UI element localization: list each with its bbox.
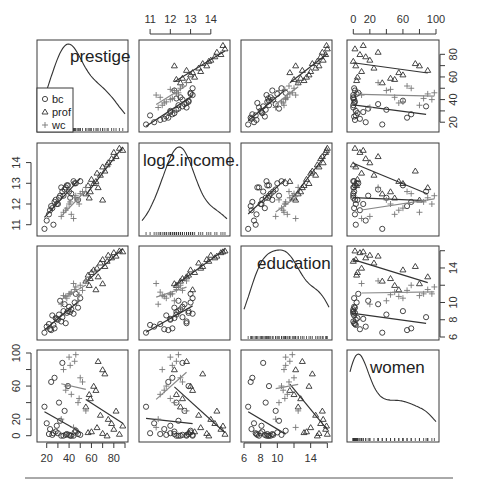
tick-label: 10: [447, 296, 459, 308]
point-triangle-icon: [375, 154, 381, 159]
point-plus-icon: [392, 211, 398, 217]
point-plus-icon: [383, 88, 389, 94]
point-triangle-icon: [412, 263, 418, 268]
point-circle-icon: [246, 122, 251, 127]
point-plus-icon: [367, 105, 373, 111]
point-triangle-icon: [93, 287, 99, 292]
point-plus-icon: [167, 354, 173, 360]
point-triangle-icon: [309, 371, 315, 376]
point-plus-icon: [60, 367, 66, 373]
point-plus-icon: [293, 216, 299, 222]
tick-label: 100: [10, 344, 22, 362]
point-triangle-icon: [100, 197, 106, 202]
point-triangle-icon: [173, 392, 179, 397]
point-plus-icon: [171, 400, 177, 406]
point-circle-icon: [60, 360, 65, 365]
tick-label: 0: [10, 433, 22, 439]
tick-label: 80: [447, 48, 459, 60]
point-triangle-icon: [388, 75, 394, 80]
point-triangle-icon: [86, 392, 92, 397]
point-circle-icon: [62, 408, 67, 413]
point-triangle-icon: [293, 367, 299, 372]
point-circle-icon: [246, 404, 251, 409]
point-triangle-icon: [396, 70, 402, 75]
fit-line-bc: [353, 313, 426, 323]
point-circle-icon: [270, 88, 275, 93]
point-circle-icon: [352, 212, 357, 217]
point-circle-icon: [356, 291, 361, 296]
point-plus-icon: [73, 352, 79, 358]
point-triangle-icon: [359, 265, 365, 270]
point-plus-icon: [66, 354, 72, 360]
point-circle-icon: [352, 296, 357, 301]
point-triangle-icon: [392, 282, 398, 287]
legend-label-bc: bc: [52, 93, 64, 105]
point-plus-icon: [359, 281, 365, 287]
point-triangle-icon: [425, 185, 431, 190]
point-circle-icon: [353, 222, 358, 227]
point-circle-icon: [168, 423, 173, 428]
point-triangle-icon: [357, 52, 363, 57]
point-circle-icon: [254, 212, 259, 217]
point-triangle-icon: [100, 430, 106, 435]
point-plus-icon: [153, 424, 159, 430]
point-circle-icon: [273, 408, 278, 413]
tick-label: 100: [427, 13, 445, 25]
point-triangle-icon: [190, 287, 196, 292]
point-circle-icon: [246, 226, 251, 231]
tick-label: 40: [63, 452, 75, 464]
point-plus-icon: [76, 395, 82, 401]
point-plus-icon: [291, 375, 297, 381]
point-triangle-icon: [400, 267, 406, 272]
point-triangle-icon: [94, 425, 100, 430]
point-triangle-icon: [200, 371, 206, 376]
point-circle-icon: [376, 102, 381, 107]
point-plus-icon: [283, 354, 289, 360]
point-circle-icon: [44, 218, 49, 223]
point-circle-icon: [276, 106, 281, 111]
point-plus-icon: [367, 301, 373, 307]
tick-label: 13: [184, 13, 196, 25]
point-plus-icon: [388, 86, 394, 92]
point-circle-icon: [423, 104, 428, 109]
point-circle-icon: [266, 383, 271, 388]
point-triangle-icon: [359, 68, 365, 73]
point-circle-icon: [56, 400, 61, 405]
variable-label-women: women: [369, 358, 425, 377]
point-circle-icon: [42, 226, 47, 231]
point-triangle-icon: [188, 267, 194, 272]
point-plus-icon: [273, 416, 279, 422]
point-triangle-icon: [287, 70, 293, 75]
fit-line-prof: [86, 248, 123, 282]
tick-label: 6: [447, 334, 459, 340]
point-circle-icon: [180, 315, 185, 320]
point-triangle-icon: [97, 260, 103, 265]
point-circle-icon: [366, 193, 371, 198]
legend-label-wc: wc: [51, 119, 66, 131]
point-circle-icon: [51, 222, 56, 227]
point-plus-icon: [429, 97, 435, 103]
point-plus-icon: [184, 408, 190, 414]
fit-line-prof: [174, 250, 225, 286]
point-circle-icon: [251, 421, 256, 426]
point-circle-icon: [357, 116, 362, 121]
tick-label: 8: [447, 317, 459, 323]
tick-label: 0: [350, 13, 356, 25]
point-plus-icon: [72, 358, 78, 364]
panel-education-vs-prestige: [37, 246, 128, 340]
point-triangle-icon: [308, 425, 314, 430]
tick-label: 14: [447, 262, 459, 274]
panel-prestige-vs-log2.income.: [139, 40, 230, 132]
point-triangle-icon: [388, 189, 394, 194]
point-triangle-icon: [208, 252, 214, 257]
point-triangle-icon: [319, 408, 325, 413]
legend: bc prof wc: [37, 88, 73, 132]
point-plus-icon: [68, 391, 74, 397]
scatterplot-matrix: 1112131402060100204060806810141112131402…: [0, 0, 478, 482]
tick-label: 60: [10, 380, 22, 392]
point-triangle-icon: [375, 49, 381, 54]
fit-line-prof: [353, 260, 427, 283]
point-plus-icon: [83, 184, 89, 190]
tick-label: 20: [10, 413, 22, 425]
fit-line-bc: [146, 96, 193, 126]
